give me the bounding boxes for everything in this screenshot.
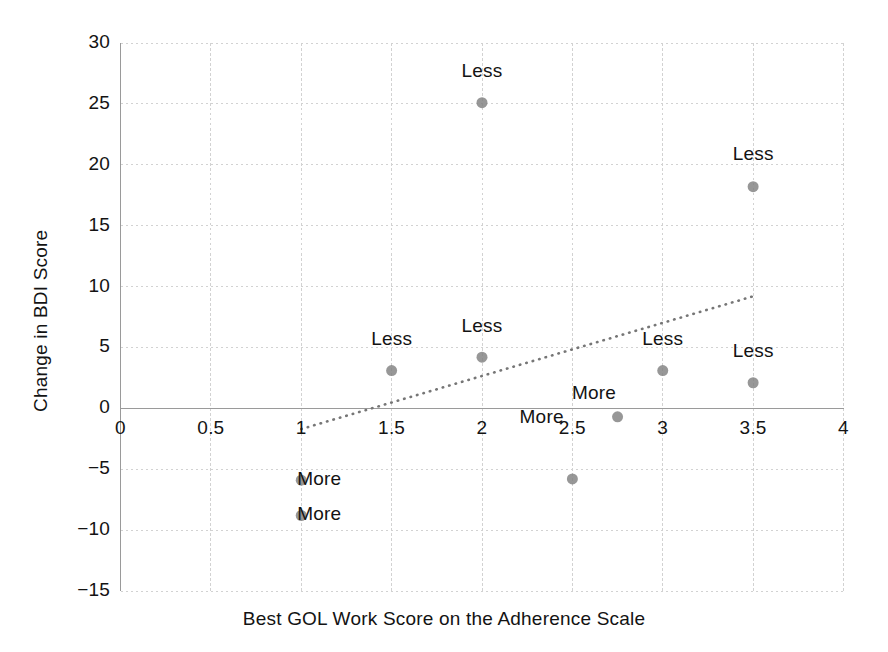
- y-tick-label: 10: [55, 275, 110, 297]
- y-tick-label: 15: [55, 214, 110, 236]
- y-tick-label: 30: [55, 31, 110, 53]
- x-axis-title: Best GOL Work Score on the Adherence Sca…: [0, 608, 888, 630]
- y-tick-label: 25: [55, 92, 110, 114]
- x-tick-label: 2: [452, 417, 512, 439]
- y-tick-label: −15: [55, 579, 110, 601]
- x-tick-label: 1: [271, 417, 331, 439]
- x-tick-label: 4: [814, 417, 874, 439]
- point-annotation: Less: [727, 143, 779, 165]
- x-tick-label: 0.5: [181, 417, 241, 439]
- point-annotation: Less: [727, 340, 779, 362]
- point-annotation: More: [568, 382, 620, 404]
- point-annotation: More: [516, 406, 568, 428]
- y-axis-title: Change in BDI Score: [30, 230, 52, 412]
- x-tick-label: 3: [633, 417, 693, 439]
- y-tick-label: −5: [55, 457, 110, 479]
- x-tick-label: 1.5: [362, 417, 422, 439]
- point-annotation: Less: [366, 328, 418, 350]
- plot-canvas: [0, 0, 888, 652]
- y-tick-label: −10: [55, 518, 110, 540]
- point-annotation: More: [293, 503, 345, 525]
- point-annotation: Less: [456, 60, 508, 82]
- x-tick-label: 3.5: [723, 417, 783, 439]
- point-annotation: Less: [456, 315, 508, 337]
- y-tick-label: 0: [55, 396, 110, 418]
- scatter-chart-figure: 302520151050−5−10−15 00.511.522.533.54 L…: [0, 0, 888, 652]
- data-points: [296, 97, 759, 521]
- y-tick-label: 20: [55, 153, 110, 175]
- point-annotation: More: [293, 468, 345, 490]
- y-tick-label: 5: [55, 335, 110, 357]
- point-annotation: Less: [637, 328, 689, 350]
- x-tick-label: 0: [91, 417, 151, 439]
